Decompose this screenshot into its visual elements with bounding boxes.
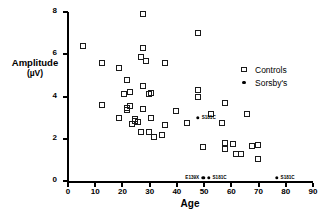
data-point-controls-19 xyxy=(140,83,146,89)
legend-item-controls: Controls xyxy=(238,63,287,76)
data-point-controls-39 xyxy=(222,146,228,152)
data-point-controls-47 xyxy=(255,156,261,162)
y-tick-4: 4 xyxy=(63,96,68,98)
point-annotation-S181C: S181C xyxy=(213,176,227,181)
y-tick-label-2: 2 xyxy=(53,134,57,142)
y-tick-label-4: 4 xyxy=(53,92,57,100)
data-point-controls-21 xyxy=(143,58,149,64)
x-tick-label-20: 20 xyxy=(118,188,127,196)
data-point-sorsbys-0 xyxy=(196,116,199,119)
data-point-controls-3 xyxy=(116,65,122,71)
legend-label: Sorsby's xyxy=(255,78,287,88)
x-tick-label-40: 40 xyxy=(172,188,181,196)
y-tick-label-6: 6 xyxy=(53,49,57,57)
y-axis-line xyxy=(67,12,69,183)
data-point-sorsbys-1 xyxy=(201,176,204,179)
y-tick-6: 6 xyxy=(63,53,68,55)
point-annotation-S181C: S181C xyxy=(281,176,295,181)
x-tick-label-50: 50 xyxy=(200,188,209,196)
point-annotation-S181C: S181C xyxy=(202,115,216,120)
y-tick-label-8: 8 xyxy=(53,7,57,15)
data-point-controls-0 xyxy=(80,43,86,49)
data-point-controls-4 xyxy=(116,115,122,121)
y-tick-label-0: 0 xyxy=(53,176,57,184)
legend: ControlsSorsby's xyxy=(238,63,287,89)
data-point-controls-38 xyxy=(222,100,228,106)
data-point-controls-35 xyxy=(200,144,206,150)
legend-item-sorsbys: Sorsby's xyxy=(238,76,287,89)
data-point-controls-6 xyxy=(124,77,130,83)
data-point-controls-26 xyxy=(151,134,157,140)
x-tick-label-10: 10 xyxy=(91,188,100,196)
data-point-controls-2 xyxy=(99,102,105,108)
data-point-controls-14 xyxy=(135,119,141,125)
x-tick-label-90: 90 xyxy=(309,188,318,196)
data-point-controls-15 xyxy=(138,129,144,135)
data-point-controls-32 xyxy=(195,87,201,93)
data-point-controls-41 xyxy=(230,141,236,147)
x-axis-title: Age xyxy=(67,198,313,209)
legend-label: Controls xyxy=(255,65,287,75)
data-point-sorsbys-2 xyxy=(207,176,210,179)
y-tick-8: 8 xyxy=(63,11,68,13)
x-tick-label-80: 80 xyxy=(281,188,290,196)
data-point-controls-40 xyxy=(222,140,228,146)
data-point-controls-17 xyxy=(140,11,146,17)
plot-area: 02468 0102030405060708090 S181CE139XS181… xyxy=(67,12,312,182)
x-tick-label-60: 60 xyxy=(227,188,236,196)
x-axis-line xyxy=(67,181,313,183)
x-tick-label-70: 70 xyxy=(254,188,263,196)
data-point-controls-1 xyxy=(99,60,105,66)
data-point-controls-25 xyxy=(148,115,154,121)
data-point-controls-31 xyxy=(184,120,190,126)
data-point-controls-46 xyxy=(255,142,261,148)
data-point-controls-43 xyxy=(238,151,244,157)
data-point-controls-20 xyxy=(140,106,146,112)
data-point-controls-37 xyxy=(219,120,225,126)
y-axis-title-text: Amplitude xyxy=(12,57,58,68)
scatter-plot-figure: Amplitude (µV) Age 02468 010203040506070… xyxy=(0,0,325,222)
y-axis-unit-text: (µV) xyxy=(6,69,64,79)
y-tick-2: 2 xyxy=(63,138,68,140)
x-tick-label-30: 30 xyxy=(145,188,154,196)
y-tick-0: 0 xyxy=(63,180,68,182)
data-point-controls-27 xyxy=(159,132,165,138)
data-point-controls-33 xyxy=(195,94,201,100)
data-point-controls-29 xyxy=(162,122,168,128)
data-point-controls-10 xyxy=(127,103,133,109)
y-axis-title: Amplitude (µV) xyxy=(6,58,64,79)
x-tick-label-0: 0 xyxy=(66,188,70,196)
data-point-sorsbys-3 xyxy=(275,176,278,179)
data-point-controls-44 xyxy=(244,111,250,117)
data-point-controls-9 xyxy=(127,89,133,95)
filled-circle-icon xyxy=(238,81,250,84)
data-point-controls-34 xyxy=(195,30,201,36)
point-annotation-E139X: E139X xyxy=(185,176,199,181)
data-point-controls-30 xyxy=(173,108,179,114)
data-point-controls-28 xyxy=(162,60,168,66)
data-point-controls-18 xyxy=(140,45,146,51)
data-point-controls-24 xyxy=(148,90,154,96)
open-square-icon xyxy=(238,67,250,72)
